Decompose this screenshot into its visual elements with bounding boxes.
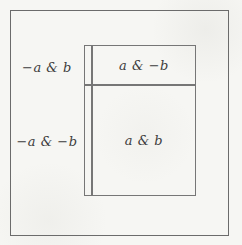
region-label-not-a-and-not-b: −a & −b [11, 119, 83, 163]
region-label-a-and-b: a & b [93, 85, 195, 195]
inner-rectangle: a & −b a & b [84, 45, 196, 196]
region-label-a-and-not-b: a & −b [93, 46, 195, 84]
region-label-not-a-and-b: −a & b [11, 47, 83, 87]
outer-region-square: −a & b −a & −b a & −b a & b [10, 10, 229, 236]
